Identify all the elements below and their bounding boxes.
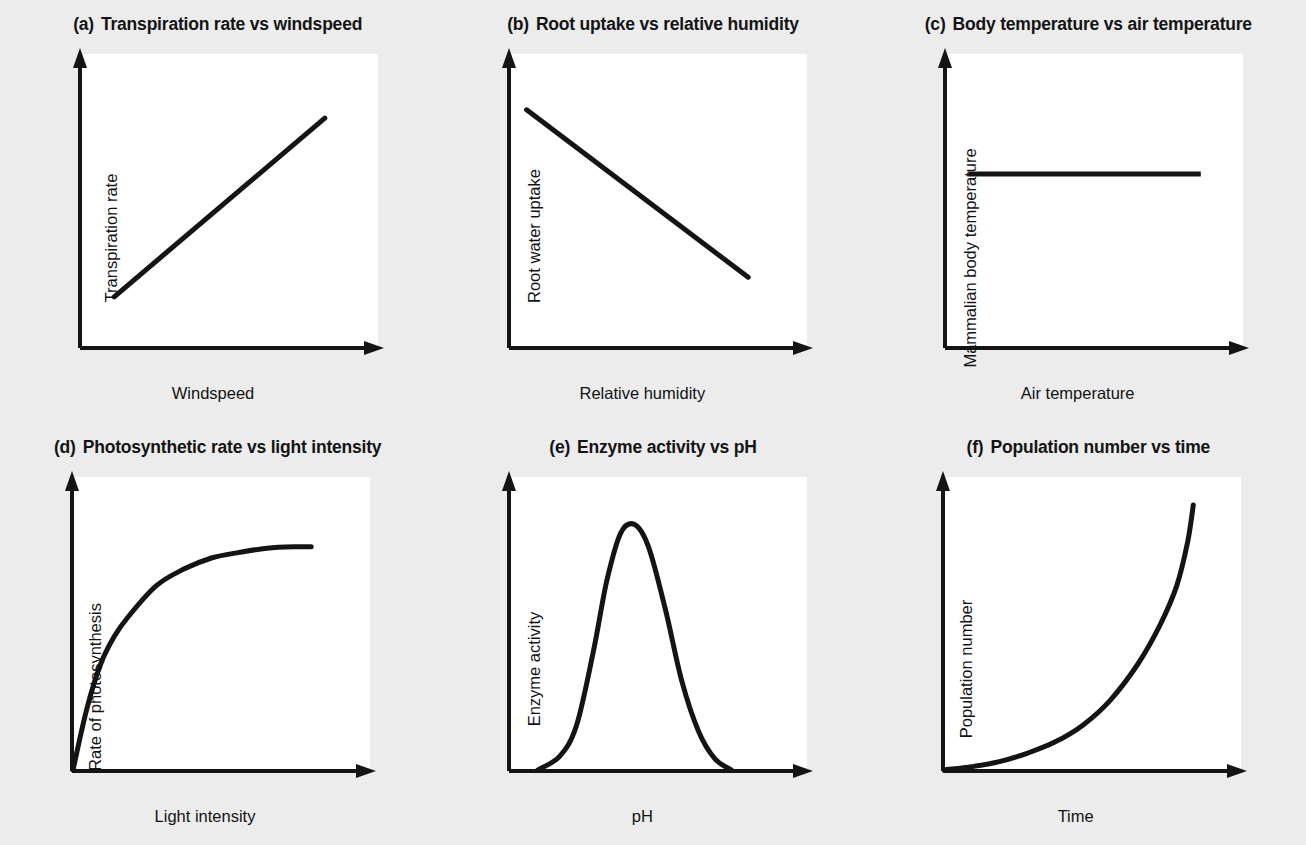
panel-c-tag: (c): [925, 14, 946, 35]
panel-d-title: (d)Photosynthetic rate vs light intensit…: [0, 437, 435, 458]
panel-f-svg: [921, 469, 1251, 799]
panel-e-plot: Enzyme activity: [487, 469, 817, 799]
panel-e-plot-area: [507, 477, 807, 771]
panel-b-title: (b)Root uptake vs relative humidity: [435, 14, 870, 35]
panel-b-tag: (b): [507, 14, 529, 35]
panel-d-svg: [50, 469, 380, 799]
panel-a-title: (a)Transpiration rate vs windspeed: [0, 14, 435, 35]
panel-e-tag: (e): [549, 437, 570, 458]
panel-e-title-text: Enzyme activity vs pH: [577, 437, 757, 457]
panel-a-tag: (a): [73, 14, 94, 35]
panel-d-title-text: Photosynthetic rate vs light intensity: [83, 437, 382, 457]
panel-f-xlabel: Time: [921, 807, 1231, 826]
panel-c-svg: [923, 46, 1253, 376]
panel-a-svg: [58, 46, 388, 376]
panel-b-plot: Root water uptake: [487, 46, 817, 376]
panel-c: (c)Body temperature vs air temperature M…: [871, 0, 1306, 423]
figure-sheet: (a)Transpiration rate vs windspeed Trans…: [0, 0, 1306, 845]
panel-a-title-text: Transpiration rate vs windspeed: [101, 14, 362, 34]
panel-f-tag: (f): [967, 437, 984, 458]
panel-b-plot-area: [507, 54, 807, 348]
panel-c-xlabel: Air temperature: [923, 384, 1233, 403]
panel-a: (a)Transpiration rate vs windspeed Trans…: [0, 0, 435, 423]
panel-b-xlabel: Relative humidity: [487, 384, 797, 403]
panel-c-title: (c)Body temperature vs air temperature: [871, 14, 1306, 35]
panel-f-plot-area: [941, 477, 1241, 771]
panel-b-svg: [487, 46, 817, 376]
panel-f-title: (f)Population number vs time: [871, 437, 1306, 458]
panel-c-plot: Mammalian body temperature: [923, 46, 1253, 376]
panel-a-xlabel: Windspeed: [58, 384, 368, 403]
panel-f-plot: Population number: [921, 469, 1251, 799]
panel-e: (e)Enzyme activity vs pH Enzyme activity…: [435, 423, 870, 845]
panel-c-plot-area: [943, 54, 1243, 348]
panel-a-plot: Transpiration rate: [58, 46, 388, 376]
panel-f: (f)Population number vs time Population …: [871, 423, 1306, 845]
panel-d-tag: (d): [54, 437, 76, 458]
panel-e-svg: [487, 469, 817, 799]
panel-b-title-text: Root uptake vs relative humidity: [536, 14, 799, 34]
panel-b: (b)Root uptake vs relative humidity Root…: [435, 0, 870, 423]
panel-c-title-text: Body temperature vs air temperature: [953, 14, 1252, 34]
panel-e-xlabel: pH: [487, 807, 797, 826]
panel-grid: (a)Transpiration rate vs windspeed Trans…: [0, 0, 1306, 845]
panel-d: (d)Photosynthetic rate vs light intensit…: [0, 423, 435, 845]
panel-f-title-text: Population number vs time: [990, 437, 1210, 457]
panel-d-plot-area: [70, 477, 370, 771]
panel-e-title: (e)Enzyme activity vs pH: [435, 437, 870, 458]
panel-d-xlabel: Light intensity: [50, 807, 360, 826]
panel-d-plot: Rate of photosynthesis: [50, 469, 380, 799]
